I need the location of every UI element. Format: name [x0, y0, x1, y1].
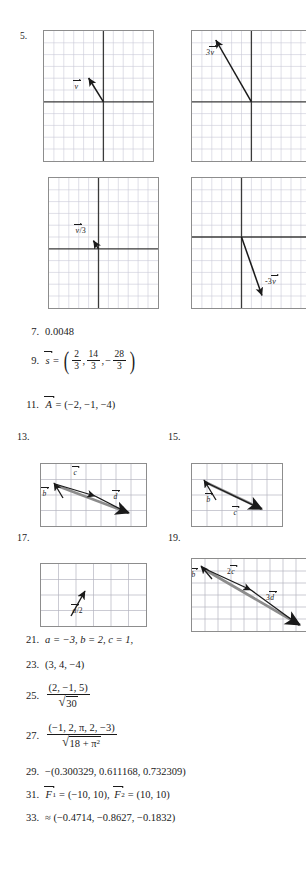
answer-31-number: 31. [14, 789, 39, 800]
diagram-19-label-b: b [191, 570, 196, 579]
problem-number-13: 13. [17, 431, 30, 442]
answer-27-number: 27. [14, 730, 39, 741]
problem-number-19: 19. [168, 532, 181, 543]
answer-29-value: −(0.300329, 0.611168, 0.732309) [45, 766, 186, 777]
gridlines [41, 564, 146, 626]
answer-7-value: 0.0048 [45, 326, 74, 337]
answer-29-number: 29. [14, 766, 39, 777]
plot-vector-v: v [43, 30, 154, 162]
answer-31-equals-2: = [128, 789, 134, 800]
plot-vector-neg-3v: -3v [191, 177, 306, 309]
answer-9-frac-1: 2 3 [72, 349, 81, 371]
diagram-13-label-d: d [113, 492, 118, 501]
diagram-13-canvas [41, 464, 146, 526]
answer-7: 7. 0.0048 [19, 326, 74, 337]
answer-31-f2-sub: 2 [121, 791, 125, 799]
answer-25-number: 25. [14, 690, 39, 701]
radical-icon: √ [62, 735, 69, 749]
axes [44, 31, 153, 161]
diagram-17: a/2 [40, 563, 147, 627]
diagram-19: b 2c 3d [191, 558, 306, 632]
answer-9-number: 9. [19, 355, 39, 366]
diagram-17-canvas [41, 564, 146, 626]
radical-icon: √ [59, 695, 66, 709]
answer-31-f1-sub: 1 [52, 791, 56, 799]
answer-9: 9. s = ( 2 3 , 14 3 , − 28 3 ) [19, 349, 136, 371]
plot-v-canvas [44, 31, 153, 161]
gridlines [192, 178, 306, 308]
diagram-13: b c d [40, 463, 147, 527]
answer-25-radical: √ 30 [59, 695, 78, 709]
answer-31-separator: , [107, 789, 110, 800]
answer-23: 23. (3, 4, −4) [14, 659, 84, 670]
vector-label-d: d [270, 593, 275, 602]
answer-31-f1-symbol: F [45, 789, 52, 800]
answer-31-f2-symbol: F [114, 789, 121, 800]
answer-23-number: 23. [14, 659, 39, 670]
plot-vector-3v: 33vv [191, 30, 306, 162]
plot-neg3v-label: -3v [265, 277, 276, 286]
answer-27-radical: √ 18 + π2 [62, 735, 101, 749]
plot-3v-label: 33vv [206, 48, 215, 57]
diagram-19-canvas [192, 559, 306, 631]
answer-33-number: 33. [14, 812, 39, 823]
answer-31: 31. F1 = (−10, 10) , F2 = (10, 10) [14, 789, 170, 800]
diagram-19-resultant [202, 568, 300, 625]
problem-number-17: 17. [17, 532, 30, 543]
answer-9-frac-3: 28 3 [113, 349, 127, 371]
answer-key-page: 5. [0, 0, 306, 870]
vector-label-3v-glyph: v [210, 48, 215, 57]
axes [49, 178, 158, 308]
diagram-15: b c [191, 463, 283, 527]
answer-27: 27. (−1, 2, π, 2, −3) √ 18 + π2 [14, 722, 118, 749]
sep-1: , [82, 355, 85, 366]
plot-v3-label: v/3 [75, 226, 86, 235]
vector-label-c: c [231, 567, 235, 576]
answer-9-equals: = [53, 355, 59, 366]
answer-9-frac-2: 14 3 [87, 349, 101, 371]
answer-27-numerator: (−1, 2, π, 2, −3) [47, 722, 117, 735]
answer-33-value: ≈ (−0.4714, −0.8627, −0.1832) [45, 812, 175, 823]
answer-9-lhs: s [45, 355, 50, 366]
answer-21-number: 21. [14, 634, 39, 645]
answer-33: 33. ≈ (−0.4714, −0.8627, −0.1832) [14, 812, 175, 823]
sep-2: , [102, 355, 105, 366]
answer-29: 29. −(0.300329, 0.611168, 0.732309) [14, 766, 186, 777]
vector-neg3v-arrow [242, 237, 263, 296]
answer-31-equals-1: = [59, 789, 65, 800]
answer-31-f2-value: (10, 10) [137, 789, 170, 800]
vector-label-v3-glyph: v [75, 226, 80, 235]
vector-3v-arrow [216, 40, 252, 102]
answer-27-fraction: (−1, 2, π, 2, −3) √ 18 + π2 [47, 722, 117, 749]
answer-25-numerator: (2, −1, 5) [47, 682, 90, 695]
answer-31-f1-value: (−10, 10) [68, 789, 107, 800]
diagram-15-label-c: c [233, 508, 237, 517]
answer-11-equals: = [55, 399, 61, 410]
plot-v3-canvas [49, 178, 158, 308]
answer-21-value: a = −3, b = 2, c = 1, [45, 634, 133, 645]
answer-9-sign-3: − [105, 355, 111, 366]
vector-label-v: v [74, 82, 79, 91]
answer-11-value: (−2, −1, −4) [64, 399, 115, 410]
vector-v3-arrow [93, 241, 98, 249]
problem-number-15: 15. [168, 431, 181, 442]
answer-21: 21. a = −3, b = 2, c = 1, [14, 634, 133, 645]
vector-label-a: a [72, 606, 77, 615]
plot-vector-v-over-3: v/3 [48, 177, 159, 309]
diagram-19-label-3d: 3d [266, 593, 275, 602]
answer-7-number: 7. [19, 326, 39, 337]
diagram-19-vector-2c [201, 567, 251, 590]
diagram-15-label-b: b [206, 495, 211, 504]
answer-25-fraction: (2, −1, 5) √ 30 [47, 682, 90, 709]
gridlines [44, 31, 153, 161]
vector-label-neg3v-glyph: v [272, 277, 277, 286]
plot-v-label: v [74, 82, 79, 91]
plot-neg3v-canvas [192, 178, 306, 308]
diagram-19-label-2c: 2c [227, 567, 235, 576]
answer-11: 11. A = (−2, −1, −4) [14, 399, 115, 410]
diagram-13-label-b: b [42, 489, 47, 498]
problem-number-5: 5. [20, 31, 27, 41]
answer-23-value: (3, 4, −4) [45, 659, 84, 670]
diagram-17-label-a-half: a/2 [72, 606, 83, 615]
diagram-13-label-c: c [73, 468, 77, 477]
